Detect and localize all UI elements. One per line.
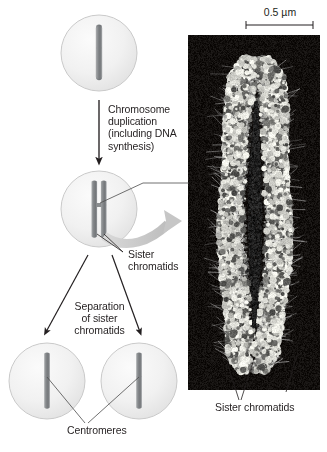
cell-daughter-right <box>101 343 177 419</box>
chromosome-duplication-figure: 0.5 µm <box>0 0 327 452</box>
label-centromeres: Centromeres <box>67 424 127 436</box>
chromosome-daughter-left <box>44 352 50 408</box>
diagram-vector-layer <box>0 0 327 452</box>
chromosome-daughter-right <box>136 352 142 408</box>
label-sister-chromatids-diagram: Sister chromatids <box>128 248 178 272</box>
leader-sister-chromatids-micrograph <box>227 355 297 400</box>
label-separation-of-sister-chromatids: Separation of sister chromatids <box>57 300 142 337</box>
cell-daughter-left <box>9 343 85 419</box>
cell-unduplicated <box>61 15 137 91</box>
scale-bar <box>246 21 313 29</box>
label-sister-chromatids-micrograph: Sister chromatids <box>215 401 294 413</box>
chromosome-single <box>96 24 102 80</box>
label-chromosome-duplication: Chromosome duplication (including DNA sy… <box>108 103 177 152</box>
